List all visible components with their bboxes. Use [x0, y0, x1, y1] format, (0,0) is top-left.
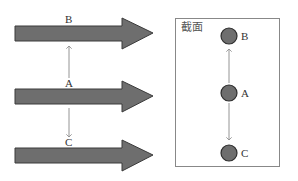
label-a-section: A [241, 88, 249, 99]
section-point-c [221, 145, 237, 161]
section-point-a [221, 85, 237, 101]
flow-arrow-a [15, 81, 153, 112]
diagram-canvas [0, 0, 298, 181]
diagram: B A C 截面 B A C [0, 0, 298, 181]
label-c-section: C [241, 148, 248, 159]
cross-section-title: 截面 [181, 22, 203, 34]
label-b-left: B [65, 14, 72, 25]
label-c-left: C [65, 137, 72, 148]
section-point-b [221, 28, 237, 44]
label-a-left: A [65, 78, 73, 89]
flow-arrow-b [15, 18, 153, 49]
label-b-section: B [241, 31, 248, 42]
flow-arrow-c [15, 140, 153, 171]
